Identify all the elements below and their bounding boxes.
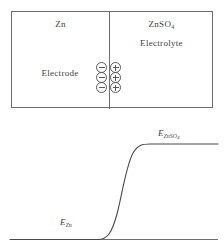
electrolyte-potential-subscript-text: ZnSO <box>164 133 178 139</box>
potential-curve-svg <box>0 120 224 245</box>
electrolyte-compound-subscript: 4 <box>171 24 174 30</box>
positive-charge-icon <box>110 82 121 93</box>
negative-charge-column <box>96 62 107 92</box>
figure-canvas: Zn ZnSO4 Electrolyte Electrode EZn EZnSO… <box>0 0 224 245</box>
electrolyte-role-label: Electrolyte <box>109 38 214 48</box>
potential-curve <box>10 144 218 240</box>
electrolyte-potential-label: EZnSO4 <box>158 128 179 140</box>
electrode-potential-label: EZn <box>60 217 72 228</box>
positive-charge-column <box>110 62 121 92</box>
potential-profile-plot: EZn EZnSO4 <box>0 120 224 245</box>
electrolyte-compound-label: ZnSO4 <box>109 19 214 32</box>
electrolyte-potential-subscript-number: 4 <box>177 135 179 140</box>
cell-diagram-box: Zn ZnSO4 Electrolyte Electrode <box>11 11 213 108</box>
electrode-role-label: Electrode <box>20 68 100 78</box>
negative-charge-icon <box>96 82 107 93</box>
electrode-potential-subscript: Zn <box>66 222 72 228</box>
electrolyte-potential-subscript: ZnSO4 <box>164 133 180 139</box>
electrolyte-compound-text: ZnSO <box>148 19 171 29</box>
electrode-material-label: Zn <box>12 19 109 29</box>
